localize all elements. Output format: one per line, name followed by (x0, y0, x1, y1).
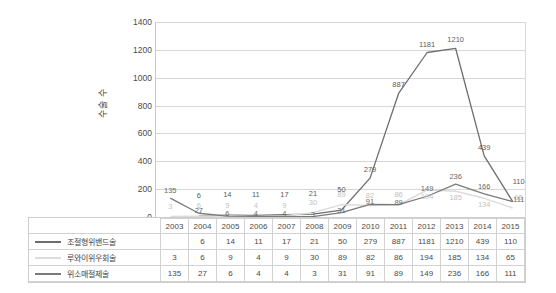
y-axis-tick-labels: 1400120010008006004002000 (112, 22, 152, 217)
cell-s2-2008: 30 (301, 250, 329, 266)
cell-s3-2006: 4 (245, 266, 273, 282)
table-row: 루와이위우회술369493089828619418513465 (29, 250, 525, 266)
cell-s2-2009: 89 (329, 250, 357, 266)
series-lines (156, 22, 527, 217)
cell-s1-2015: 110 (497, 234, 525, 250)
cell-s3-2011: 89 (385, 266, 413, 282)
x-tick-2013: 2013 (441, 219, 469, 234)
cell-s3-2009: 31 (329, 266, 357, 282)
series-line-3 (170, 184, 512, 216)
cell-s2-2015: 65 (497, 250, 525, 266)
legend-line-icon (35, 273, 61, 275)
cell-s2-2010: 82 (357, 250, 385, 266)
x-tick-2007: 2007 (273, 219, 301, 234)
cell-s1-2008: 21 (301, 234, 329, 250)
cell-s2-2004: 6 (189, 250, 217, 266)
legend-and-values-table: 2003200420052006200720082009201020112012… (29, 218, 525, 282)
cell-s2-2005: 9 (217, 250, 245, 266)
cell-s3-2014: 166 (469, 266, 497, 282)
cell-s1-2003 (161, 234, 189, 250)
legend-line-icon (35, 241, 61, 243)
cell-s1-2004: 6 (189, 234, 217, 250)
y-tick-400: 400 (116, 157, 152, 166)
x-tick-2008: 2008 (301, 219, 329, 234)
cell-s3-2010: 91 (357, 266, 385, 282)
table-corner-cell (29, 219, 161, 234)
table-row: 조절형위밴드술6141117215027988711811210439110 (29, 234, 525, 250)
legend-item-3[interactable]: 위소매절제술 (29, 266, 161, 282)
cell-s1-2009: 50 (329, 234, 357, 250)
x-tick-2010: 2010 (357, 219, 385, 234)
legend-item-2[interactable]: 루와이위우회술 (29, 250, 161, 266)
x-tick-2006: 2006 (245, 219, 273, 234)
cell-s1-2012: 1181 (413, 234, 441, 250)
cell-s3-2015: 111 (497, 266, 525, 282)
cell-s3-2003: 135 (161, 266, 189, 282)
legend-label: 조절형위밴드술 (67, 236, 116, 247)
y-tick-600: 600 (116, 129, 152, 138)
cell-s2-2007: 9 (273, 250, 301, 266)
cell-s2-2012: 194 (413, 250, 441, 266)
x-tick-2004: 2004 (189, 219, 217, 234)
x-tick-2009: 2009 (329, 219, 357, 234)
cell-s2-2013: 185 (441, 250, 469, 266)
legend-line-icon (35, 257, 61, 259)
y-tick-200: 200 (116, 185, 152, 194)
cell-s1-2011: 887 (385, 234, 413, 250)
cell-s3-2008: 3 (301, 266, 329, 282)
cell-s2-2014: 134 (469, 250, 497, 266)
data-table: 2003200420052006200720082009201020112012… (28, 217, 526, 283)
cell-s2-2006: 4 (245, 250, 273, 266)
x-tick-2015: 2015 (497, 219, 525, 234)
y-tick-1000: 1000 (116, 73, 152, 82)
y-axis-title: 수술 수 (95, 73, 111, 133)
cell-s3-2004: 27 (189, 266, 217, 282)
legend-label: 위소매절제술 (67, 268, 109, 279)
cell-s1-2006: 11 (245, 234, 273, 250)
legend-item-1[interactable]: 조절형위밴드술 (29, 234, 161, 250)
cell-s1-2013: 1210 (441, 234, 469, 250)
x-tick-2014: 2014 (469, 219, 497, 234)
cell-s1-2014: 439 (469, 234, 497, 250)
series-line-1 (199, 48, 513, 216)
y-tick-800: 800 (116, 101, 152, 110)
cell-s1-2007: 17 (273, 234, 301, 250)
table-header-row: 2003200420052006200720082009201020112012… (29, 219, 525, 234)
x-tick-2003: 2003 (161, 219, 189, 234)
x-tick-2011: 2011 (385, 219, 413, 234)
chart-figure: 수술 수 1400120010008006004002000 614111721… (0, 0, 556, 293)
cell-s3-2005: 6 (217, 266, 245, 282)
cell-s3-2007: 4 (273, 266, 301, 282)
cell-s3-2013: 236 (441, 266, 469, 282)
y-tick-1200: 1200 (116, 46, 152, 55)
cell-s3-2012: 149 (413, 266, 441, 282)
cell-s1-2010: 279 (357, 234, 385, 250)
cell-s2-2003: 3 (161, 250, 189, 266)
x-tick-2005: 2005 (217, 219, 245, 234)
cell-s1-2005: 14 (217, 234, 245, 250)
legend-label: 루와이위우회술 (67, 252, 116, 263)
x-tick-2012: 2012 (413, 219, 441, 234)
table-row: 위소매절제술135276443319189149236166111 (29, 266, 525, 282)
plot-area: 6141117215027988711811210439110369493089… (155, 22, 526, 217)
y-tick-1400: 1400 (116, 18, 152, 27)
cell-s2-2011: 86 (385, 250, 413, 266)
